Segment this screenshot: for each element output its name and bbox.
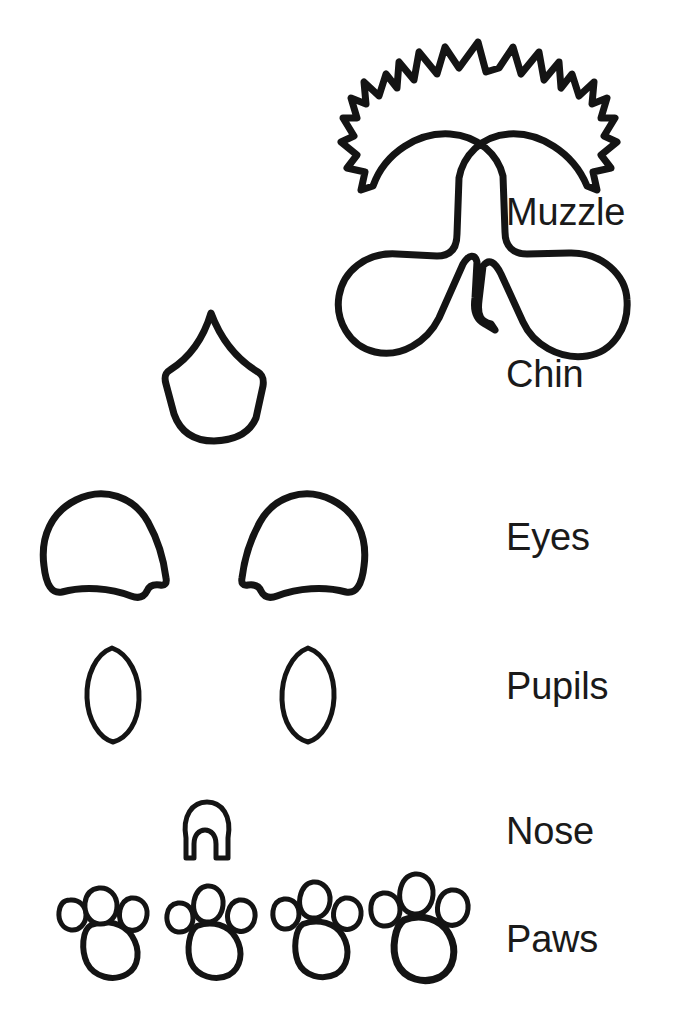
paw-2-toe-inner [227,900,255,931]
template-artwork [0,0,691,1021]
paw-4-toe-outer [371,893,400,926]
eyes-pieces [43,494,365,598]
paw-2-pad [189,923,241,977]
part-label-pupils: Pupils [506,667,608,705]
chin-piece [165,313,263,441]
paw-print-1 [59,888,147,978]
chin-outline [165,313,263,441]
part-label-eyes: Eyes [506,518,590,556]
paw-3-toe-outer [273,899,299,929]
part-label-muzzle: Muzzle [506,193,625,231]
paw-1-toe-inner [119,898,147,930]
part-label-nose: Nose [506,812,594,850]
paw-3-toe-inner [333,898,361,929]
paw-print-4 [371,874,468,981]
paw-4-pad [394,917,454,980]
pupils-pieces [87,648,334,742]
paw-print-2 [167,886,255,978]
paw-3-toe-middle [300,882,331,918]
paw-2-toe-outer [167,903,193,932]
paw-2-toe-middle [194,886,224,922]
part-label-chin: Chin [506,355,583,393]
part-label-paws: Paws [506,920,598,958]
pupil-right-outline [282,648,334,742]
nose-outline [185,802,229,858]
paw-1-toe-middle [85,888,117,924]
pupil-left-outline [87,648,139,742]
nose-piece [185,802,229,858]
eye-right-outline [242,494,365,598]
craft-template-sheet: Muzzle Chin Eyes Pupils Nose Paws [0,0,691,1021]
paw-4-toe-inner [437,890,468,925]
paw-4-toe-middle [400,874,433,914]
paw-print-3 [273,882,361,977]
paw-1-toe-outer [59,900,86,930]
eye-left-outline [43,494,166,598]
paws-pieces [59,874,468,981]
